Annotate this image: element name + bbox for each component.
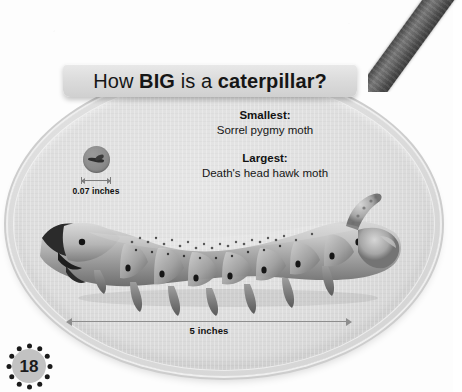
large-measure-label: 5 inches xyxy=(66,325,352,336)
page-number-dot xyxy=(6,364,11,369)
twig-bark-texture xyxy=(368,0,462,92)
small-arrowhead-left-icon xyxy=(81,178,85,184)
twig-decoration xyxy=(368,0,462,92)
page-number-dot xyxy=(44,374,49,379)
facts-spacer xyxy=(155,138,375,151)
moth-silhouette-icon xyxy=(83,146,110,173)
fact-heading-smallest: Smallest: xyxy=(155,108,375,123)
title-part-isa: is a xyxy=(175,70,218,92)
title-part-big: BIG xyxy=(139,70,175,92)
page-number-dot xyxy=(37,381,42,386)
page-number-dot xyxy=(37,346,42,351)
fact-value-largest: Death's head hawk moth xyxy=(155,166,375,182)
page-number-dot xyxy=(9,374,14,379)
page-number-dot xyxy=(47,364,52,369)
small-arrowhead-right-icon xyxy=(107,178,111,184)
fact-heading-largest: Largest: xyxy=(155,151,375,166)
small-specimen-group: 0.07 inches xyxy=(50,146,142,196)
large-measure-line xyxy=(71,321,347,322)
page-number-dot xyxy=(27,343,32,348)
page-number-dot xyxy=(27,384,32,389)
title-part-how: How xyxy=(93,70,139,92)
twig-branch-icon xyxy=(368,0,462,92)
fact-value-smallest: Sorrel pygmy moth xyxy=(155,123,375,139)
page-title: How BIG is a caterpillar? xyxy=(93,71,327,91)
title-banner: How BIG is a caterpillar? xyxy=(63,64,357,97)
page-number-badge: 18 xyxy=(4,341,54,391)
page-number-circle: 18 xyxy=(12,349,46,383)
page-number-dot xyxy=(44,353,49,358)
small-measure-arrow xyxy=(79,176,113,185)
page-number-text: 18 xyxy=(20,358,39,375)
page-number-dot xyxy=(16,381,21,386)
caterpillar-photo xyxy=(28,186,410,316)
facts-block: Smallest: Sorrel pygmy moth Largest: Dea… xyxy=(155,108,375,181)
caterpillar-svg xyxy=(28,186,410,316)
small-measure-label: 0.07 inches xyxy=(50,186,142,196)
large-measure-arrow: 5 inches xyxy=(66,316,352,327)
title-part-caterpillar: caterpillar? xyxy=(218,70,327,92)
